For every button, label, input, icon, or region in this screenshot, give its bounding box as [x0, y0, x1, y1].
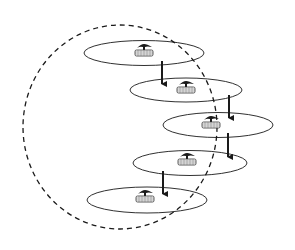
cell-3 [163, 113, 273, 138]
cell-2 [130, 78, 242, 102]
base-station-icon [178, 153, 196, 165]
dashed-boundary [23, 25, 217, 229]
cell-4 [133, 151, 247, 176]
cell-5 [87, 187, 207, 213]
base-station-icon [202, 116, 220, 128]
base-station-icon [177, 81, 195, 93]
base-station-icon [135, 44, 153, 56]
handover-diagram [0, 0, 295, 250]
base-station-icon [136, 190, 154, 202]
